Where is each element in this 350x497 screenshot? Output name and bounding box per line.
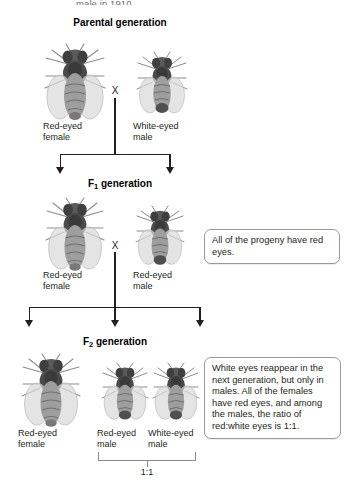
fly-f2-red-eyed-male <box>97 361 153 423</box>
f2-white-male-label: White-eyed male <box>148 428 212 450</box>
parental-branch-left <box>60 154 61 168</box>
f2-heading-suffix: generation <box>93 336 147 347</box>
ratio-label: 1:1 <box>117 467 177 477</box>
fly-f1-red-eyed-male <box>131 204 189 268</box>
parental-female-label: Red-eyed female <box>43 121 105 143</box>
parental-branch-right <box>169 154 170 168</box>
parental-arrow-right <box>166 167 174 174</box>
ratio-bracket-right <box>195 452 196 460</box>
genetics-cross-diagram: male in 1910. Parental generation <box>0 0 350 497</box>
f2-female-label: Red-eyed female <box>18 428 82 450</box>
f1-heading-suffix: generation <box>98 178 152 189</box>
ratio-bracket-left <box>98 452 99 460</box>
ratio-bracket-stem <box>147 460 148 467</box>
f2-callout-box: White eyes reappear in the next generati… <box>204 357 341 439</box>
f1-arrow-left <box>25 320 33 327</box>
fly-f2-white-eyed-male <box>148 361 204 423</box>
parental-cross-line <box>114 98 115 155</box>
f1-branch-right <box>199 307 200 321</box>
f1-cross-symbol: X <box>109 240 121 251</box>
fly-parental-red-eyed-female <box>38 42 112 122</box>
f1-cross-line <box>114 252 115 308</box>
fly-f1-red-eyed-female <box>40 196 110 272</box>
f1-callout-box: All of the progeny have red eyes. <box>204 229 340 264</box>
f1-generation-heading: F1 generation <box>40 178 200 189</box>
parental-branch-bar <box>60 154 170 155</box>
parental-cross-symbol: X <box>109 85 121 96</box>
parental-male-label: White-eyed male <box>133 121 197 143</box>
parental-generation-heading: Parental generation <box>40 17 200 28</box>
f1-branch-left <box>29 307 30 321</box>
truncated-caption-text: male in 1910. <box>76 0 236 5</box>
f1-branch-center <box>114 307 115 321</box>
parental-arrow-left <box>56 167 64 174</box>
f1-female-label: Red-eyed female <box>43 270 105 292</box>
fly-f2-red-eyed-female <box>16 352 86 428</box>
fly-parental-white-eyed-male <box>132 50 192 116</box>
f1-heading-subscript: 1 <box>94 182 98 191</box>
f1-arrow-center <box>111 320 119 327</box>
f2-heading-subscript: 2 <box>89 340 93 349</box>
f1-arrow-right <box>196 320 204 327</box>
f1-male-label: Red-eyed male <box>133 270 195 292</box>
f2-generation-heading: F2 generation <box>35 336 195 347</box>
